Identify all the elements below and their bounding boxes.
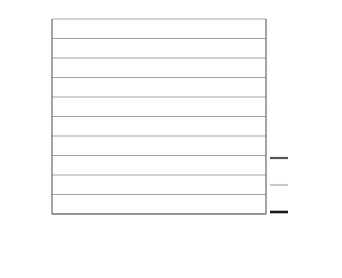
chart-legend [270,158,288,212]
gridlines [52,19,266,214]
participation-line-chart [0,0,342,278]
